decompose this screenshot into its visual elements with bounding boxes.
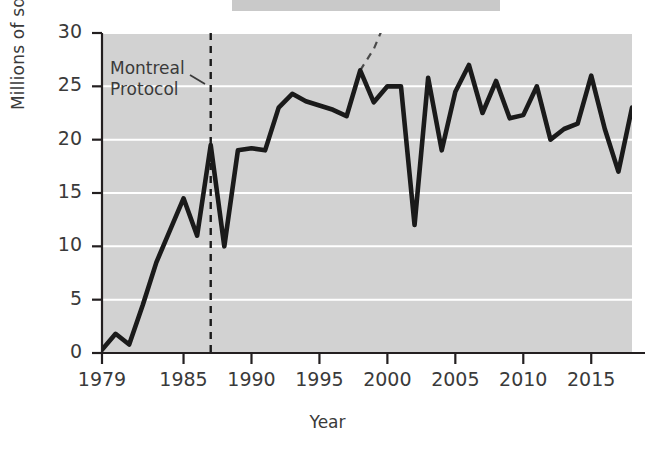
y-tick-label: 20 (36, 127, 82, 149)
x-axis-title: Year (0, 412, 655, 432)
x-tick-label: 2005 (420, 368, 490, 390)
x-tick-label: 1985 (149, 368, 219, 390)
x-tick-label: 2015 (556, 368, 626, 390)
y-tick-label: 5 (36, 287, 82, 309)
x-tick-marks (102, 353, 591, 364)
annotation-line-2: Protocol (110, 79, 179, 99)
x-tick-label: 1990 (216, 368, 286, 390)
y-tick-label: 0 (36, 340, 82, 362)
annotation-line-1: Montreal (110, 58, 185, 78)
y-tick-label: 25 (36, 73, 82, 95)
x-tick-label: 1995 (284, 368, 354, 390)
y-axis-title: Millions of sq km (8, 0, 30, 110)
y-tick-label: 15 (36, 180, 82, 202)
x-tick-label: 2010 (488, 368, 558, 390)
x-tick-label: 1979 (67, 368, 137, 390)
ozone-hole-area-chart: Millions of sq km Year 051015202530 1979… (0, 0, 655, 452)
y-tick-label: 30 (36, 20, 82, 42)
y-tick-marks (92, 33, 102, 353)
y-tick-label: 10 (36, 233, 82, 255)
montreal-protocol-annotation: MontrealProtocol (110, 58, 185, 100)
x-tick-label: 2000 (352, 368, 422, 390)
